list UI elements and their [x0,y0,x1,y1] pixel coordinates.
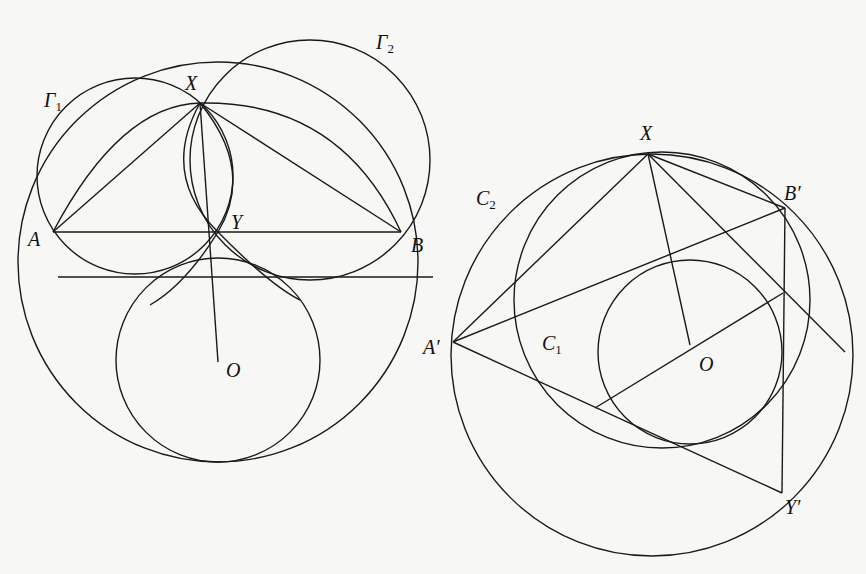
label-b: B [411,234,423,256]
segment-through-o [595,293,783,408]
label-x: X [184,72,198,94]
label-o: O [226,359,240,381]
label-c2: C2 [476,187,496,212]
arc-through-xy [184,103,300,300]
label-x: X [639,122,653,144]
label-gamma1: Γ1 [43,89,62,114]
segment-apyp [453,342,782,493]
circle-gamma2 [190,40,430,280]
segment-x-right [648,154,845,352]
label-bprime: B′ [784,182,801,204]
left-figure: Γ1 Γ2 X Y A B O [18,31,433,462]
label-a: A [26,228,41,250]
outer-circle [18,62,418,462]
label-yprime: Y′ [785,496,801,518]
label-o: O [699,353,713,375]
label-aprime: A′ [421,336,440,358]
label-y: Y [231,211,244,233]
label-gamma2: Γ2 [375,31,394,56]
right-figure: X B′ A′ Y′ O C1 C2 [421,122,853,556]
geometry-figure-canvas: Γ1 Γ2 X Y A B O X B′ A′ Y′ O C1 C2 [0,0,866,574]
label-c1: C1 [542,332,562,357]
